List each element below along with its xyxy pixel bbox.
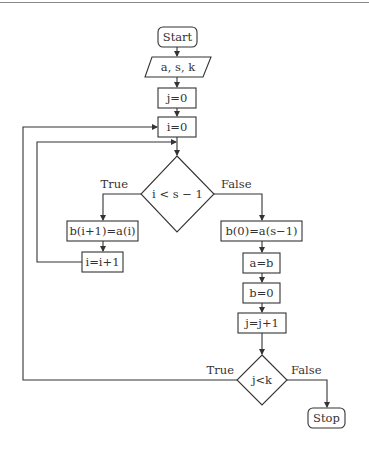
node-cond-i: i < s − 1 [141,156,214,232]
node-start: Start [158,27,197,47]
cond-j-true-label: True [207,363,235,377]
edge-cond-j-false [287,380,327,407]
start-label: Start [163,30,193,44]
node-assign-a: a=b [243,253,280,273]
node-shift: b(i+1)=a(i) [67,221,138,241]
node-reset-b: b=0 [243,283,280,303]
stop-label: Stop [313,411,340,425]
reset-b-label: b=0 [249,286,273,300]
edge-cond-i-false [214,194,262,220]
cond-i-true-label: True [101,177,129,191]
init-j-label: j=0 [165,91,188,105]
wrap-label: b(0)=a(s−1) [226,224,298,238]
cond-i-false-label: False [221,177,252,191]
node-inc-j: j=j+1 [238,313,286,333]
init-i-label: i=0 [167,120,188,134]
edge-outer-loop [23,127,237,380]
node-init-i: i=0 [158,117,196,137]
node-inc-i: i=i+1 [82,252,123,272]
node-stop: Stop [308,408,345,428]
node-cond-j: j<k [237,355,287,405]
inc-j-label: j=j+1 [243,316,279,330]
node-input: a, s, k [145,57,211,77]
input-label: a, s, k [161,60,196,74]
shift-label: b(i+1)=a(i) [69,224,135,238]
node-wrap: b(0)=a(s−1) [221,221,302,241]
inc-i-label: i=i+1 [86,255,120,269]
node-init-j: j=0 [158,88,196,108]
flowchart: Start a, s, k j=0 i=0 i < s − 1 True Fal… [0,0,369,451]
edge-cond-i-true [103,194,141,220]
cond-j-false-label: False [291,363,322,377]
assign-a-label: a=b [250,256,274,270]
cond-j-label: j<k [250,373,273,387]
cond-i-label: i < s − 1 [152,187,203,201]
